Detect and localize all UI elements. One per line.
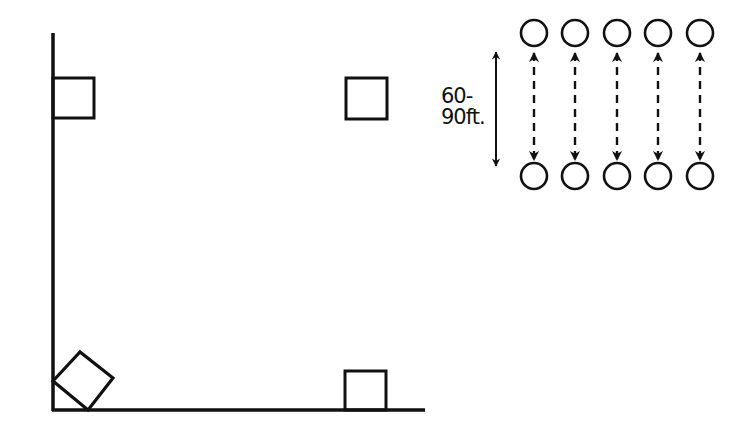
player-top-5 — [687, 20, 713, 46]
player-top-4 — [645, 20, 671, 46]
player-top-3 — [604, 20, 630, 46]
second-base — [346, 78, 387, 119]
distance-label-line1: 60- — [441, 86, 472, 107]
drill-diagram — [0, 0, 756, 444]
distance-label-line2: 90ft. — [441, 107, 485, 128]
player-bottom-5 — [687, 163, 713, 189]
first-base — [345, 371, 386, 410]
player-bottom-2 — [562, 163, 588, 189]
field — [52, 33, 425, 411]
player-top-1 — [521, 20, 547, 46]
player-bottom-3 — [604, 163, 630, 189]
player-bottom-1 — [521, 163, 547, 189]
player-top-2 — [562, 20, 588, 46]
player-bottom-4 — [645, 163, 671, 189]
player-rows — [521, 20, 713, 189]
third-base — [53, 78, 94, 118]
home-plate — [53, 352, 113, 410]
